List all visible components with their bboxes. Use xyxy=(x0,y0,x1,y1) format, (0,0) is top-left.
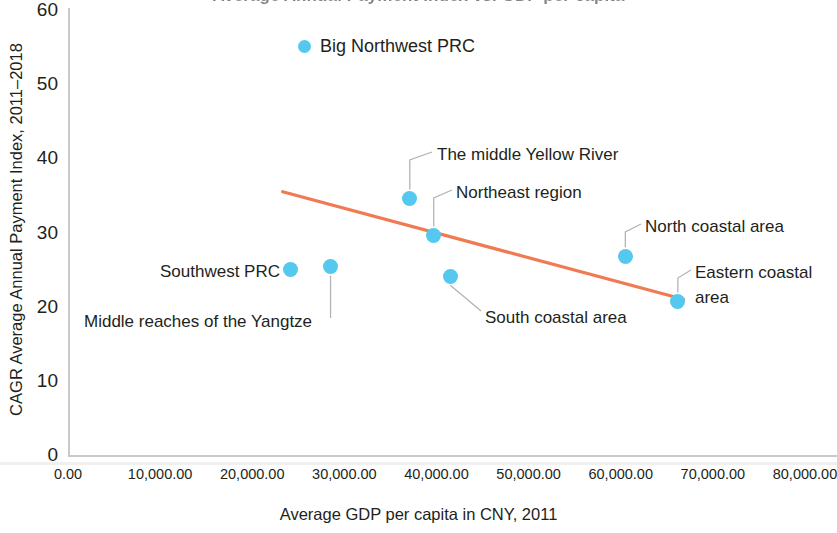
annotation-south-coastal-area: South coastal area xyxy=(485,306,627,331)
y-axis-tick-10: 10 xyxy=(0,370,58,392)
y-axis-line xyxy=(68,8,70,457)
annotation-the-middle-yellow-river: The middle Yellow River xyxy=(437,143,618,168)
x-axis-tick-40000: 40,000.00 xyxy=(404,466,469,482)
x-axis-tick-0: 0.00 xyxy=(54,466,82,482)
legend-marker-icon xyxy=(298,40,311,53)
data-point-northeast-region[interactable] xyxy=(426,228,441,243)
x-axis-tick-10000: 10,000.00 xyxy=(128,466,193,482)
data-point-middle-reaches-of-the-yangtze[interactable] xyxy=(323,259,338,274)
y-axis-tick-60: 60 xyxy=(0,0,58,21)
x-axis-tick-20000: 20,000.00 xyxy=(220,466,285,482)
x-axis-tick-60000: 60,000.00 xyxy=(588,466,653,482)
leader-line-south-coastal-area xyxy=(450,285,481,311)
x-axis-tick-70000: 70,000.00 xyxy=(681,466,746,482)
data-point-south-coastal-area[interactable] xyxy=(443,269,458,284)
data-point-the-middle-yellow-river[interactable] xyxy=(402,191,417,206)
trend-line xyxy=(283,192,684,300)
annotation-middle-reaches-of-the-yangtze: Middle reaches of the Yangtze xyxy=(84,310,312,335)
annotation-eastern-coastal-line-2: area xyxy=(695,286,825,311)
leader-line-north-coastal-area xyxy=(625,224,641,247)
chart-legend: Big Northwest PRC xyxy=(298,36,475,57)
data-point-eastern-coastal-area[interactable] xyxy=(670,294,685,309)
scatter-chart: Average Annual Payment Index vs. GDP per… xyxy=(0,0,837,533)
data-point-southwest-prc[interactable] xyxy=(283,262,298,277)
y-axis-tick-30: 30 xyxy=(0,222,58,244)
leader-line-the-middle-yellow-river xyxy=(410,152,432,189)
data-point-north-coastal-area[interactable] xyxy=(618,249,633,264)
annotation-southwest-prc: Southwest PRC xyxy=(80,260,280,285)
leader-line-eastern-coastal-area xyxy=(678,270,691,292)
chart-title: Average Annual Payment Index vs. GDP per… xyxy=(0,0,837,6)
annotation-eastern-coastal-line-1: Eastern coastal xyxy=(695,261,825,286)
x-axis-tick-80000: 80,000.00 xyxy=(773,466,837,482)
leader-line-northeast-region xyxy=(434,190,452,226)
annotation-eastern-coastal-area: Eastern coastalarea xyxy=(695,261,825,310)
x-axis-line xyxy=(68,455,837,457)
annotation-leader-lines xyxy=(331,152,691,318)
y-axis-tick-50: 50 xyxy=(0,73,58,95)
legend-item-label: Big Northwest PRC xyxy=(320,36,475,57)
y-axis-tick-40: 40 xyxy=(0,147,58,169)
x-axis-tick-50000: 50,000.00 xyxy=(496,466,561,482)
annotation-northeast-region: Northeast region xyxy=(456,181,582,206)
y-axis-tick-20: 20 xyxy=(0,296,58,318)
x-axis-tick-30000: 30,000.00 xyxy=(312,466,377,482)
scan-artifact-band xyxy=(0,462,837,465)
annotation-north-coastal-area: North coastal area xyxy=(645,215,784,240)
x-axis-title: Average GDP per capita in CNY, 2011 xyxy=(0,505,837,524)
